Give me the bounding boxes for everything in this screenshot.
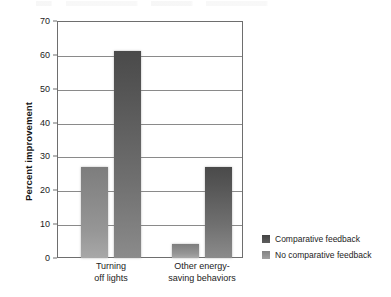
gridline-10 [58,225,242,226]
gridline-60 [58,56,242,57]
x-axis-category-label: Other energy-saving behaviors [156,261,248,284]
gridline-70 [58,22,242,23]
legend-item: No comparative feedback [262,248,388,262]
y-tick-label-40: 40 [40,118,50,128]
gridline-40 [58,124,242,125]
legend-item: Comparative feedback [262,232,388,246]
plot-area [57,21,243,258]
y-tick-label-0: 0 [45,253,50,263]
gridline-0 [58,259,242,260]
x-axis-category-label-line: Other energy- [156,261,248,273]
x-axis-category-labels: Turningoff lightsOther energy-saving beh… [57,261,243,295]
chart-legend: Comparative feedbackNo comparative feedb… [262,232,388,264]
y-tick-label-50: 50 [40,84,50,94]
gridline-20 [58,191,242,192]
legend-swatch-icon [262,235,270,243]
y-tick-label-10: 10 [40,219,50,229]
gridline-50 [58,90,242,91]
x-axis-category-label-line: saving behaviors [156,273,248,285]
cropped-caption-artifact [36,1,286,6]
legend-swatch-icon [262,251,270,259]
x-axis-category-label-line: off lights [65,273,157,285]
gridlines [58,22,242,257]
x-axis-category-label-line: Turning [65,261,157,273]
y-tick-label-70: 70 [40,16,50,26]
y-tick-label-60: 60 [40,50,50,60]
bar-chart-figure: Percent improvement 010203040506070 Turn… [0,0,391,297]
y-axis-ticks: 010203040506070 [0,21,57,258]
gridline-30 [58,157,242,158]
legend-item-label: No comparative feedback [275,250,371,260]
legend-item-label: Comparative feedback [275,234,360,244]
y-tick-label-30: 30 [40,151,50,161]
x-axis-category-label: Turningoff lights [65,261,157,284]
y-tick-label-20: 20 [40,185,50,195]
